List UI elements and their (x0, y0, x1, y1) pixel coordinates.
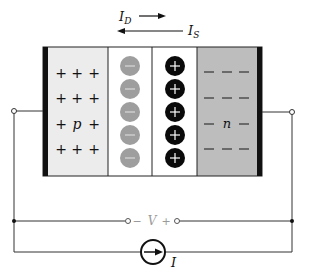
v-plus-terminal (175, 219, 180, 224)
voltage-measurement: − V + (126, 214, 180, 228)
svg-text:+: + (55, 116, 67, 132)
n-region (197, 47, 257, 176)
anode-terminal (12, 109, 17, 114)
svg-text:+: + (88, 90, 100, 106)
v-plus-sign: + (161, 215, 170, 228)
v-label: V (148, 214, 158, 228)
svg-text:+: + (55, 90, 67, 106)
is-label: IS (187, 23, 199, 40)
junction-dot-left (12, 219, 16, 223)
current-source: I (141, 240, 177, 270)
svg-text:+: + (71, 141, 83, 157)
acceptor-ions (120, 56, 140, 168)
svg-text:+: + (71, 90, 83, 106)
cathode-terminal (290, 110, 295, 115)
pn-junction-diagram: ID IS + + + + + + + p + + + + (0, 0, 310, 276)
source-label: I (170, 255, 177, 270)
svg-text:+: + (88, 141, 100, 157)
svg-text:+: + (55, 65, 67, 81)
id-label: ID (118, 9, 131, 26)
arrow-right-icon (158, 13, 166, 19)
junction-dot-right (290, 219, 294, 223)
n-label: n (223, 116, 231, 131)
cathode-contact (257, 47, 262, 176)
anode-contact (43, 47, 48, 176)
p-label: p (73, 116, 82, 132)
v-minus-sign: − (132, 215, 141, 228)
arrow-left-icon (117, 28, 125, 34)
diffusion-current: ID (118, 9, 166, 26)
svg-text:+: + (88, 65, 100, 81)
svg-text:+: + (71, 65, 83, 81)
svg-text:+: + (88, 116, 100, 132)
v-minus-terminal (126, 219, 131, 224)
donor-ions (165, 56, 185, 168)
svg-text:+: + (55, 141, 67, 157)
